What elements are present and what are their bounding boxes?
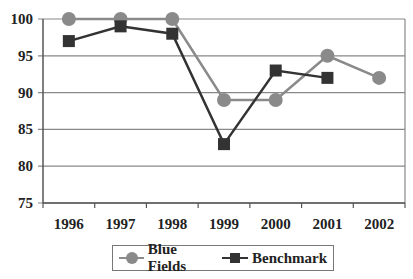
data-point (165, 12, 179, 26)
data-point (115, 20, 127, 32)
x-tick-label: 1998 (157, 216, 187, 232)
legend: Blue Fields Benchmark (112, 245, 334, 271)
y-tick-label: 80 (18, 158, 33, 174)
series-line (69, 26, 328, 144)
data-point (320, 49, 334, 63)
data-point (63, 35, 75, 47)
data-point (372, 71, 386, 85)
data-point (321, 72, 333, 84)
circle-marker-icon (119, 252, 144, 264)
data-point (217, 93, 231, 107)
y-tick-label: 85 (18, 121, 33, 137)
y-tick-label: 100 (11, 11, 34, 27)
y-tick-label: 90 (18, 85, 33, 101)
legend-label: Benchmark (252, 250, 327, 267)
legend-item-benchmark: Benchmark (222, 250, 327, 267)
y-tick-label: 95 (18, 48, 33, 64)
x-tick-label: 2001 (312, 216, 342, 232)
legend-item-blue-fields: Blue Fields (119, 241, 216, 275)
x-tick-label: 1999 (209, 216, 239, 232)
data-point (270, 65, 282, 77)
square-marker-icon (222, 252, 248, 264)
line-chart: 7580859095100199619971998199920002001200… (0, 0, 413, 279)
data-point (166, 28, 178, 40)
y-tick-label: 75 (18, 195, 33, 211)
x-tick-label: 2002 (364, 216, 394, 232)
legend-label: Blue Fields (148, 241, 216, 275)
x-tick-label: 1996 (54, 216, 85, 232)
x-tick-label: 1997 (106, 216, 137, 232)
data-point (269, 93, 283, 107)
data-point (218, 138, 230, 150)
data-point (62, 12, 76, 26)
x-tick-label: 2000 (261, 216, 291, 232)
